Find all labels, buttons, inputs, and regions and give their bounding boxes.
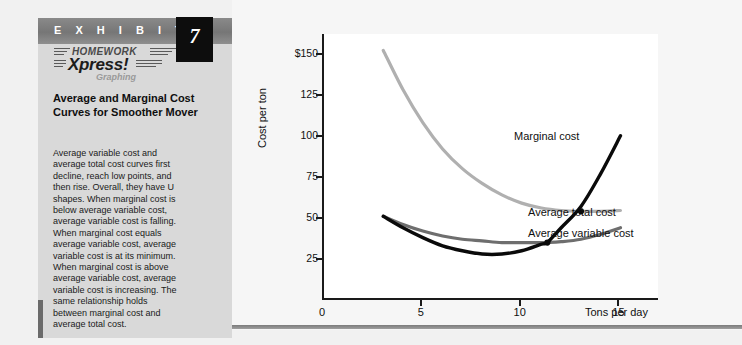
y-tick-label: $150: [272, 47, 318, 59]
panel-accent-bar: [38, 300, 43, 338]
average-total-cost-label: Average total cost: [528, 206, 616, 218]
speed-stripes-icon: [54, 60, 66, 69]
y-tick-mark: [316, 53, 322, 55]
x-tick-label: 0: [302, 306, 342, 318]
y-tick-label: 125: [272, 88, 318, 100]
speed-stripes-icon: [150, 48, 176, 57]
x-tick-label: 5: [401, 306, 441, 318]
y-tick-mark: [316, 135, 322, 137]
y-tick-label: 25: [272, 252, 318, 264]
x-tick-label: 10: [500, 306, 540, 318]
x-tick-mark: [420, 300, 422, 306]
x-tick-mark: [519, 300, 521, 306]
y-tick-mark: [316, 217, 322, 219]
logo-line-graphing: Graphing: [96, 72, 136, 82]
average-total-cost-curve: [383, 50, 620, 211]
exhibit-number: 7: [176, 25, 213, 48]
y-tick-mark: [316, 176, 322, 178]
y-tick-mark: [316, 258, 322, 260]
exhibit-page: E X H I B I T 7 HOMEWORK Xpress! Graphin…: [0, 0, 742, 345]
speed-stripes-icon: [136, 60, 162, 69]
y-tick-mark: [316, 94, 322, 96]
y-axis-ticks: 255075100125$150: [266, 0, 318, 330]
x-tick-label: 15: [598, 306, 638, 318]
cost-curves-svg: [324, 34, 660, 300]
intersection-dot: [544, 239, 550, 245]
exhibit-body-text: Average variable cost and average total …: [53, 148, 183, 331]
average-variable-cost-label: Average variable cost: [528, 227, 634, 239]
y-tick-label: 75: [272, 170, 318, 182]
marginal-cost-label: Marginal cost: [514, 130, 579, 142]
y-tick-label: 100: [272, 129, 318, 141]
y-tick-label: 50: [272, 211, 318, 223]
exhibit-label: E X H I B I T: [54, 24, 187, 36]
x-tick-mark: [617, 300, 619, 306]
plot-area: [322, 34, 658, 300]
homework-xpress-logo: HOMEWORK Xpress! Graphing: [54, 46, 182, 82]
exhibit-title: Average and Marginal Cost Curves for Smo…: [53, 91, 218, 119]
